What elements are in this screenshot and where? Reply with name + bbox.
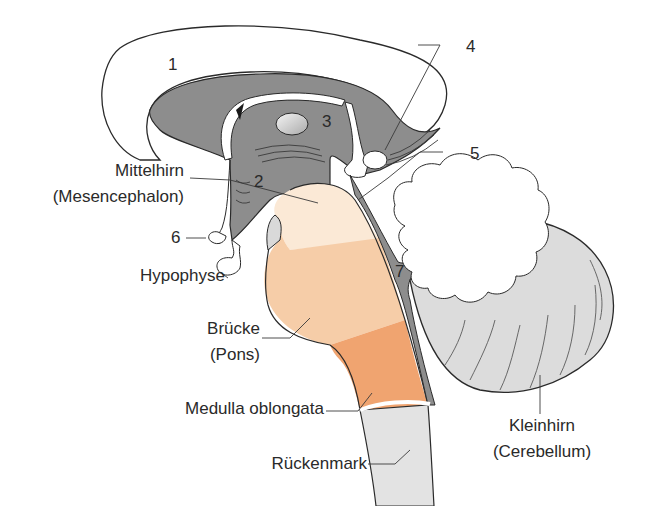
pineal-gland (363, 151, 387, 169)
spinal-cord (360, 405, 434, 506)
label-mesencephalon: (Mesencephalon) (53, 186, 184, 207)
optic-chiasm (209, 232, 226, 244)
callout-1: 1 (168, 55, 177, 75)
label-mittelhirn: Mittelhirn (115, 160, 184, 181)
interthalamic-adhesion (276, 113, 308, 135)
label-pons: (Pons) (210, 344, 260, 365)
callout-3: 3 (322, 112, 331, 132)
label-medulla-oblongata: Medulla oblongata (185, 398, 324, 419)
callout-5: 5 (470, 144, 479, 164)
label-cerebellum: (Cerebellum) (482, 441, 602, 462)
label-hypophyse: Hypophyse (140, 265, 225, 286)
callout-6: 6 (171, 228, 180, 248)
brainstem-diagram: 1 2 3 4 5 6 7 Mittelhirn (Mesencephalon)… (0, 0, 661, 506)
callout-2: 2 (254, 172, 263, 192)
label-bruecke: Brücke (207, 318, 260, 339)
callout-7: 7 (395, 262, 404, 282)
label-rueckenmark: Rückenmark (272, 453, 367, 474)
label-kleinhirn: Kleinhirn (490, 415, 594, 436)
midbrain-region (274, 183, 380, 250)
callout-4: 4 (466, 37, 475, 57)
